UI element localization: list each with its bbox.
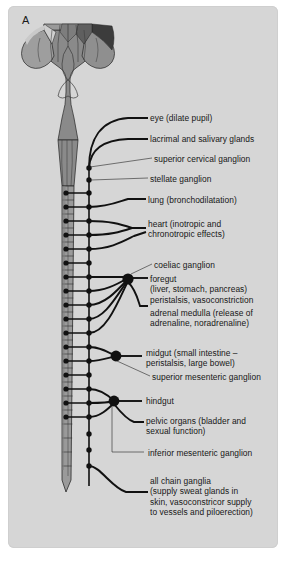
label-superior-mesenteric-ganglion: superior mesenteric ganglion: [152, 372, 261, 382]
label-superior-cervical-ganglion: superior cervical ganglion: [154, 154, 250, 164]
label-hindgut: hindgut: [146, 396, 174, 406]
label-coeliac-ganglion: coeliac ganglion: [154, 260, 215, 270]
label-lung: lung (bronchodilatation): [148, 195, 237, 205]
label-pelvic-organs: pelvic organs (bladder and sexual functi…: [146, 416, 246, 437]
label-layer: eye (dilate pupil) lacrimal and salivary…: [0, 0, 289, 570]
label-heart: heart (inotropic and chronotropic effect…: [148, 219, 225, 240]
label-midgut: midgut (small intestine – peristalsis, l…: [146, 348, 238, 369]
label-stellate-ganglion: stellate ganglion: [150, 174, 211, 184]
label-foregut: foregut (liver, stomach, pancreas) peris…: [150, 274, 253, 305]
label-adrenal-medulla: adrenal medulla (release of adrenaline, …: [150, 308, 253, 329]
figure-stage: A: [0, 0, 289, 570]
label-inferior-mesenteric-ganglion: inferior mesenteric ganglion: [148, 448, 252, 458]
label-eye: eye (dilate pupil): [150, 113, 212, 123]
label-all-chain-ganglia: all chain ganglia (supply sweat glands i…: [150, 476, 253, 517]
label-lacrimal-salivary: lacrimal and salivary glands: [150, 134, 254, 144]
